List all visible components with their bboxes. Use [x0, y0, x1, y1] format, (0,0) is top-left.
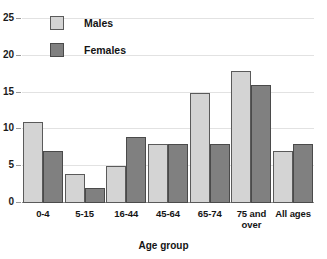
bar-group — [231, 19, 271, 203]
x-axis-title: Age group — [0, 240, 327, 251]
x-axis-label: 5-15 — [64, 208, 106, 219]
y-axis-tick-label: 15 — [3, 87, 14, 97]
bar-females-5-15 — [85, 188, 105, 203]
bar-males-65-74 — [190, 93, 210, 203]
y-axis-tick-mark — [16, 165, 21, 166]
x-axis-label: All ages — [272, 208, 314, 219]
bar-chart: 0510152025 0-45-1516-4445-6465-7475 ando… — [0, 0, 327, 259]
bar-group — [190, 19, 230, 203]
bar-group — [148, 19, 188, 203]
y-axis-tick-mark — [16, 55, 21, 56]
y-axis-tick-label: 5 — [8, 160, 14, 170]
legend-item-males: Males — [50, 16, 113, 30]
y-axis-tick-mark — [16, 202, 21, 203]
bar-females-16-44 — [126, 137, 146, 203]
bar-females-65-74 — [210, 144, 230, 203]
bar-males-5-15 — [65, 174, 85, 203]
bar-females-0-4 — [43, 151, 63, 203]
bar-group — [273, 19, 313, 203]
bar-males-45-64 — [148, 144, 168, 203]
x-axis-label: 16-44 — [105, 208, 147, 219]
x-axis-label: 65-74 — [189, 208, 231, 219]
y-axis-tick-label: 20 — [3, 50, 14, 60]
x-axis-label: 75 andover — [231, 208, 273, 230]
legend-swatch-males-icon — [50, 16, 64, 30]
bar-males-0-4 — [23, 122, 43, 203]
y-axis-tick-mark — [16, 18, 21, 19]
legend-swatch-females-icon — [50, 43, 64, 57]
y-axis-tick-label: 10 — [3, 123, 14, 133]
bar-females-45-64 — [168, 144, 188, 203]
legend-label-males: Males — [84, 17, 113, 29]
y-axis-tick-mark — [16, 92, 21, 93]
bar-females-All-ages — [293, 144, 313, 203]
y-axis-tick-mark — [16, 128, 21, 129]
bar-males-All-ages — [273, 151, 293, 203]
legend-label-females: Females — [84, 44, 126, 56]
x-axis-label: 0-4 — [22, 208, 64, 219]
x-axis-label: 45-64 — [147, 208, 189, 219]
legend-item-females: Females — [50, 43, 126, 57]
y-axis-tick-label: 0 — [8, 197, 14, 207]
bar-males-75-and-over — [231, 71, 251, 203]
bar-females-75-and-over — [251, 85, 271, 203]
bar-males-16-44 — [106, 166, 126, 203]
y-axis-tick-label: 25 — [3, 13, 14, 23]
